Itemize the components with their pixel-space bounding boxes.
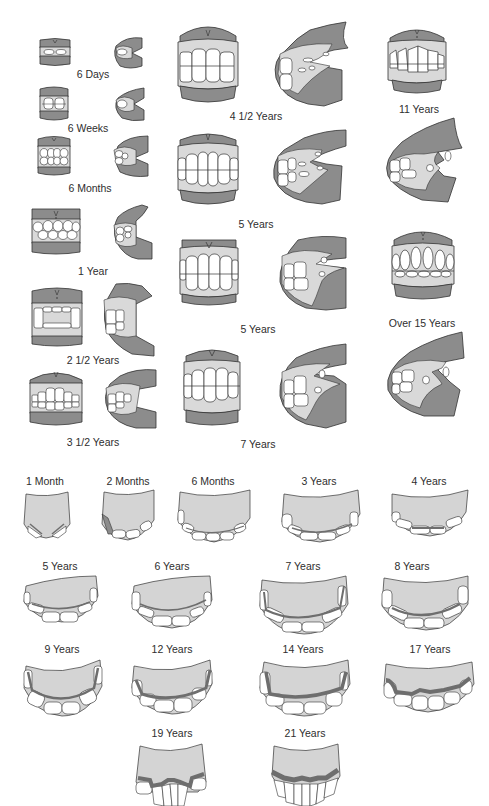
lateral-view-2-5-years xyxy=(98,280,156,356)
stage-label: 12 Years xyxy=(152,643,193,655)
lateral-view-3-5-years xyxy=(100,366,158,430)
lateral-view-6-days xyxy=(112,36,144,70)
frontal-view-6-months xyxy=(36,135,72,177)
frontal-view-7-years xyxy=(182,346,242,426)
stage-label: 6 Weeks xyxy=(68,122,109,134)
stage-label: 6 Months xyxy=(191,475,234,487)
stage-label: 11 Years xyxy=(399,103,439,115)
stage-label: 3 1/2 Years xyxy=(67,436,120,448)
stage-label: 14 Years xyxy=(283,643,324,655)
lateral-view-11-years xyxy=(382,118,462,202)
stage-label: 21 Years xyxy=(285,727,326,739)
stage-label: 6 Days xyxy=(77,68,110,80)
frontal-view-4-5-years xyxy=(176,22,240,104)
lateral-view-4-5-years xyxy=(270,22,350,106)
arcade-12-years xyxy=(130,658,214,716)
stage-label: 6 Months xyxy=(68,182,111,194)
arcade-6-months xyxy=(176,488,252,544)
stage-label: 2 Months xyxy=(106,475,149,487)
arcade-3-years xyxy=(280,488,362,544)
stage-label: 1 Year xyxy=(78,265,108,277)
stage-label: 7 Years xyxy=(240,438,275,450)
arcade-17-years xyxy=(382,658,476,714)
stage-label: 3 Years xyxy=(301,475,336,487)
lateral-view-5-years-b xyxy=(276,234,348,312)
stage-label: 4 1/2 Years xyxy=(230,110,283,122)
stage-label: 5 Years xyxy=(240,323,275,335)
lateral-view-5-years-a xyxy=(270,128,350,208)
lateral-view-7-years xyxy=(276,344,348,428)
arcade-19-years xyxy=(134,742,208,806)
stage-label: 4 Years xyxy=(411,475,446,487)
arcade-2-months xyxy=(100,488,156,542)
stage-label: 5 Years xyxy=(238,218,273,230)
arcade-1-month xyxy=(22,490,72,540)
frontal-view-3-5-years xyxy=(28,368,84,428)
stage-label: 8 Years xyxy=(394,560,429,572)
frontal-view-5-years-b xyxy=(178,236,240,308)
stage-label: 9 Years xyxy=(44,643,79,655)
stage-label: 7 Years xyxy=(285,560,320,572)
stage-label: 1 Month xyxy=(26,475,64,487)
frontal-view-5-years-a xyxy=(176,130,240,206)
stage-label: 5 Years xyxy=(42,560,77,572)
arcade-9-years xyxy=(22,658,104,718)
lateral-view-over-15-years xyxy=(384,332,466,416)
arcade-14-years xyxy=(258,658,352,718)
arcade-5-years xyxy=(22,574,100,626)
arcade-7-years xyxy=(258,574,350,636)
arcade-6-years xyxy=(130,574,214,630)
frontal-view-6-weeks xyxy=(38,86,70,122)
frontal-view-over-15-years xyxy=(390,226,456,302)
lateral-view-6-months xyxy=(110,134,150,178)
stage-label: 2 1/2 Years xyxy=(67,354,120,366)
stage-label: 19 Years xyxy=(152,727,193,739)
frontal-view-1-year xyxy=(30,206,82,256)
lateral-view-6-weeks xyxy=(112,86,146,122)
stage-label: 17 Years xyxy=(410,643,451,655)
frontal-view-6-days xyxy=(38,38,72,66)
frontal-view-11-years xyxy=(386,24,448,96)
frontal-view-2-5-years xyxy=(30,286,84,348)
stage-label: 6 Years xyxy=(154,560,189,572)
arcade-4-years xyxy=(390,488,470,540)
arcade-21-years xyxy=(270,742,342,806)
lateral-view-1-year xyxy=(108,203,154,261)
stage-label: Over 15 Years xyxy=(389,317,456,329)
arcade-8-years xyxy=(380,574,472,632)
